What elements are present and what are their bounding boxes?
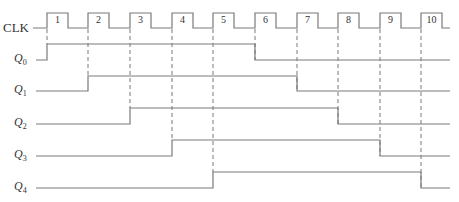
signal-label: Q3 xyxy=(14,147,27,163)
clock-pulse-number: 7 xyxy=(305,14,310,25)
timing-diagram: CLK 12345678910 Q0Q1Q2Q3Q4 xyxy=(0,0,459,202)
clock-signal: CLK 12345678910 xyxy=(3,13,450,35)
clock-pulse-number: 1 xyxy=(55,14,60,25)
clock-pulse-number: 6 xyxy=(263,14,268,25)
signal-waveform xyxy=(36,172,450,188)
clock-pulse-number: 4 xyxy=(180,14,185,25)
clock-pulse-number: 2 xyxy=(96,14,101,25)
timing-diagram-svg: CLK 12345678910 Q0Q1Q2Q3Q4 xyxy=(0,0,459,202)
clock-pulse-number: 3 xyxy=(138,14,143,25)
clock-pulse-number: 10 xyxy=(427,14,437,25)
signal-waveform xyxy=(36,140,450,156)
signal-q1: Q1 xyxy=(14,76,450,98)
signal-q2: Q2 xyxy=(14,108,450,131)
output-signals: Q0Q1Q2Q3Q4 xyxy=(14,44,450,195)
signal-waveform xyxy=(36,76,450,91)
signal-q3: Q3 xyxy=(14,140,450,163)
signal-waveform xyxy=(36,44,450,60)
clock-pulse-number: 5 xyxy=(221,14,226,25)
clock-pulse-number: 9 xyxy=(388,14,393,25)
signal-label: Q1 xyxy=(14,82,27,98)
signal-label: Q0 xyxy=(14,51,27,67)
signal-label: Q4 xyxy=(14,179,27,195)
signal-q4: Q4 xyxy=(14,172,450,195)
signal-q0: Q0 xyxy=(14,44,450,67)
clock-pulse-number: 8 xyxy=(346,14,351,25)
clock-label: CLK xyxy=(3,20,30,35)
signal-waveform xyxy=(36,108,450,124)
signal-label: Q2 xyxy=(14,115,27,131)
